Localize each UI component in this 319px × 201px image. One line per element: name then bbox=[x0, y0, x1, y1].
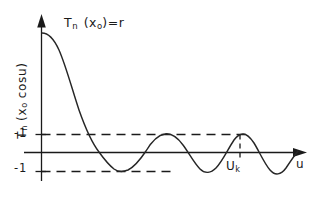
y-label-tail: cosu) bbox=[15, 62, 29, 103]
uk-marker-label: Uk bbox=[226, 160, 240, 173]
x-axis-label: u bbox=[296, 158, 304, 170]
uk-base: U bbox=[226, 159, 235, 173]
title-func: T bbox=[64, 15, 72, 30]
y-label-rest-sub: o bbox=[19, 103, 29, 108]
title-annotation: Tn (xo)=r bbox=[64, 17, 125, 30]
title-equals: =r bbox=[108, 15, 125, 30]
y-axis bbox=[37, 14, 46, 181]
y-axis-arrowhead bbox=[37, 14, 46, 28]
title-arg-open: (x bbox=[84, 15, 97, 30]
x-axis bbox=[24, 148, 307, 157]
tick-label-lower: -1 bbox=[14, 163, 27, 175]
uk-sub: k bbox=[235, 164, 240, 174]
figure-container: Tn (xo)=r Tn (xo cosu) -1 -1 Uk u bbox=[0, 0, 319, 201]
plot-canvas bbox=[0, 0, 319, 201]
y-label-rest: (x bbox=[15, 108, 29, 121]
tick-label-upper: -1 bbox=[14, 128, 27, 140]
